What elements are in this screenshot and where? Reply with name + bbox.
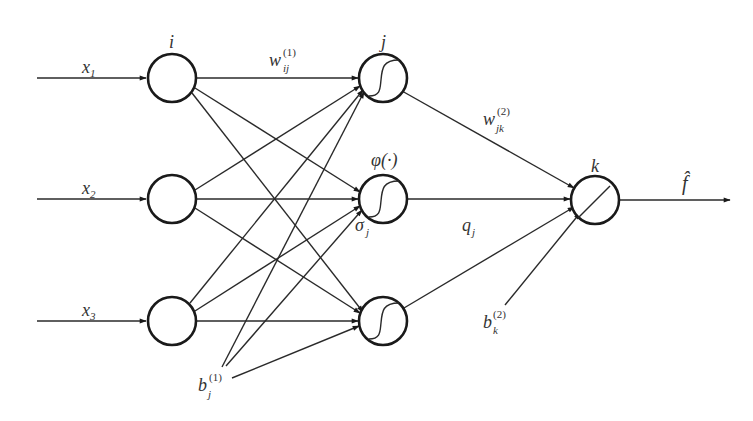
output-layer-label: k: [591, 156, 600, 176]
input-node-3: [148, 297, 196, 345]
svg-text:(2): (2): [497, 105, 510, 118]
input-layer: [148, 54, 196, 345]
neural-network-diagram: i j k x1 x2 x3 w (1) ij w (2) jk φ(·) σ: [0, 0, 753, 421]
hidden-bias-edges: [222, 92, 364, 378]
layer1-edges: [190, 78, 363, 321]
activation-label: φ(·): [371, 150, 397, 171]
input-layer-label: i: [169, 32, 174, 52]
svg-text:(1): (1): [283, 46, 296, 59]
hidden-bias-label: b (1) j: [198, 371, 222, 400]
svg-text:q: q: [462, 215, 471, 235]
svg-text:(1): (1): [209, 371, 222, 384]
input-label-x1: x1: [81, 57, 96, 79]
svg-text:(2): (2): [493, 308, 506, 321]
weight-layer2-label: w (2) jk: [483, 105, 510, 134]
output-bias-edge: [505, 213, 580, 305]
input-node-2: [148, 175, 196, 223]
weight-layer1-label: w (1) ij: [269, 46, 296, 74]
svg-text:b: b: [483, 312, 492, 332]
input-label-x3: x3: [81, 300, 96, 322]
output-bias-label: b (2) k: [483, 308, 506, 336]
svg-text:σ: σ: [355, 215, 365, 235]
output-label: f̂: [682, 171, 691, 195]
svg-text:jk: jk: [494, 122, 505, 134]
hidden-node-3: [359, 297, 407, 345]
hidden-node-2: [359, 175, 407, 223]
hidden-node-1: [359, 54, 407, 102]
svg-text:w: w: [483, 109, 495, 129]
svg-text:b: b: [198, 375, 207, 395]
input-label-x2: x2: [81, 178, 96, 200]
output-node: [571, 176, 619, 224]
svg-text:ij: ij: [283, 62, 289, 74]
hidden-output-label: q j: [462, 215, 475, 238]
svg-text:j: j: [364, 226, 369, 238]
svg-text:k: k: [493, 324, 499, 336]
svg-text:w: w: [269, 50, 281, 70]
hidden-layer: [359, 54, 407, 345]
hidden-layer-label: j: [379, 32, 386, 52]
input-node-1: [148, 54, 196, 102]
